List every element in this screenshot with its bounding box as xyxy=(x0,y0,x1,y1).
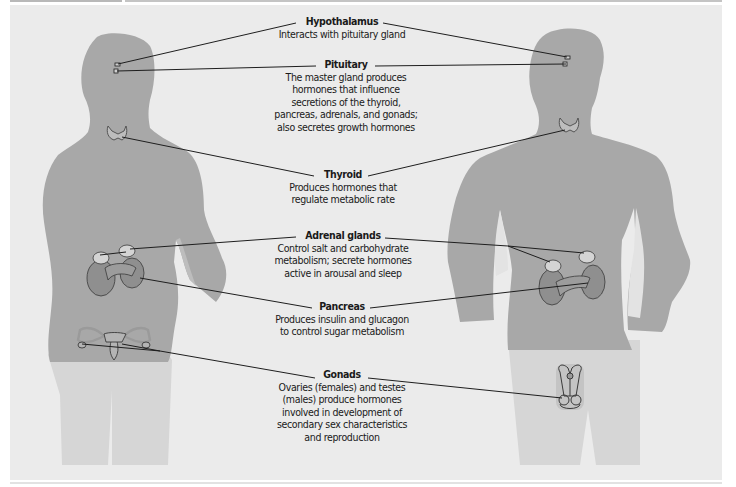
gland-title: Thyroid xyxy=(280,168,406,181)
gland-label-pancreas: Pancreas Produces insulin and glucagon t… xyxy=(270,300,414,338)
gland-description: Ovaries (females) and testes (males) pro… xyxy=(276,381,408,444)
gland-label-hypothalamus: Hypothalamus Interacts with pituitary gl… xyxy=(268,15,416,40)
gland-title: Hypothalamus xyxy=(268,15,416,28)
male-testes-icon xyxy=(556,364,584,410)
gland-label-gonads: Gonads Ovaries (females) and testes (mal… xyxy=(276,368,408,444)
gland-title: Adrenal glands xyxy=(272,229,414,242)
gland-title: Gonads xyxy=(276,368,408,381)
gland-title: Pancreas xyxy=(270,300,414,313)
gland-label-thyroid: Thyroid Produces hormones that regulate … xyxy=(280,168,406,206)
gland-description: The master gland produces hormones that … xyxy=(274,71,418,134)
gland-label-pituitary: Pituitary The master gland produces horm… xyxy=(274,58,418,134)
gland-description: Produces hormones that regulate metaboli… xyxy=(280,181,406,206)
gland-description: Control salt and carbohydrate metabolism… xyxy=(272,242,414,280)
gland-title: Pituitary xyxy=(274,58,418,71)
gland-description: Produces insulin and glucagon to control… xyxy=(270,313,414,338)
gland-description: Interacts with pituitary gland xyxy=(268,28,416,41)
gland-label-adrenal: Adrenal glands Control salt and carbohyd… xyxy=(272,229,414,279)
